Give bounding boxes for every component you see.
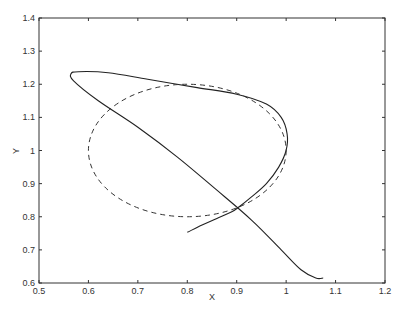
x-tick-label: 1.2 [379, 286, 392, 296]
x-tick-label: 0.9 [230, 286, 243, 296]
figure: 0.50.60.70.80.911.11.20.60.70.80.911.11.… [0, 0, 402, 316]
y-tick-label: 1.3 [22, 46, 35, 56]
x-tick-label: 1 [284, 286, 289, 296]
x-tick-label: 0.6 [82, 286, 95, 296]
axes [39, 18, 385, 283]
y-tick-label: 1.4 [22, 13, 35, 23]
y-tick-label: 0.9 [22, 179, 35, 189]
tick-labels: 0.50.60.70.80.911.11.20.60.70.80.911.11.… [22, 13, 391, 296]
y-tick-label: 0.7 [22, 245, 35, 255]
y-tick-label: 0.8 [22, 212, 35, 222]
y-axis-label: Y [11, 148, 21, 154]
y-tick-label: 1 [30, 146, 35, 156]
y-tick-label: 1.2 [22, 79, 35, 89]
x-tick-label: 0.8 [181, 286, 194, 296]
x-tick-label: 0.7 [132, 286, 145, 296]
y-tick-label: 1.1 [22, 112, 35, 122]
x-axis-label: X [209, 292, 215, 302]
x-tick-label: 1.1 [329, 286, 342, 296]
reference-circle [88, 84, 286, 217]
y-tick-label: 0.6 [22, 278, 35, 288]
plot-area [70, 72, 323, 279]
axes-frame [39, 18, 385, 283]
trajectory-line [70, 72, 323, 279]
